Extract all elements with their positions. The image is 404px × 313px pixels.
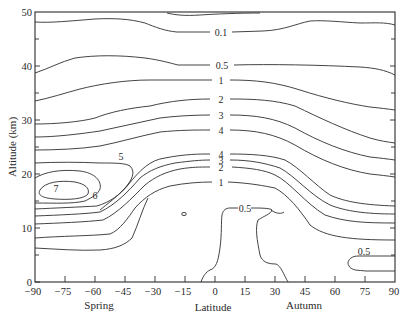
season-autumn-label: Autumn [286, 299, 323, 311]
label-4-upper: 4 [219, 125, 224, 136]
y-tick-50: 50 [22, 7, 33, 18]
y-tick-labels: 0 10 20 30 40 50 [22, 7, 33, 288]
x-tick-labels: −90 −75 −60 −45 −30 −15 0 15 30 45 60 75… [25, 286, 399, 297]
season-spring-label: Spring [84, 299, 114, 311]
contour-chart: 0 10 20 30 40 50 −90 −75 −60 −45 −30 −15… [0, 0, 404, 313]
contour-0.5-equator [201, 208, 288, 282]
label-1-upper: 1 [219, 75, 224, 86]
label-6: 6 [93, 190, 98, 201]
label-0.1: 0.1 [215, 27, 228, 38]
contour-0.5-right [348, 256, 395, 271]
y-tick-20: 20 [22, 169, 33, 180]
y-axis-title: Altitude (km) [6, 117, 19, 178]
x-tick-45: 45 [300, 286, 311, 297]
y-ticks [35, 39, 395, 282]
label-3-upper: 3 [219, 110, 224, 121]
x-tick-m15: −15 [175, 286, 191, 297]
label-2-lower: 2 [219, 162, 224, 173]
label-5: 5 [119, 151, 124, 162]
x-tick-15: 15 [240, 286, 251, 297]
x-tick-90: 90 [389, 286, 400, 297]
contour-lines [35, 13, 395, 282]
y-tick-40: 40 [22, 61, 33, 72]
x-tick-m75: −75 [55, 286, 71, 297]
label-1-lower: 1 [219, 177, 224, 188]
y-tick-30: 30 [22, 115, 33, 126]
contour-7 [39, 181, 88, 199]
x-axis-title: Latitude [195, 301, 232, 313]
contour-6 [35, 170, 100, 203]
y-tick-10: 10 [22, 223, 33, 234]
x-tick-60: 60 [330, 286, 341, 297]
x-tick-m30: −30 [145, 286, 161, 297]
x-tick-75: 75 [360, 286, 371, 297]
label-0.5-upper: 0.5 [216, 60, 229, 71]
x-ticks [65, 276, 365, 282]
label-2-upper: 2 [219, 94, 224, 105]
x-tick-m60: −60 [85, 286, 101, 297]
x-tick-m45: −45 [115, 286, 131, 297]
label-0.5-equator: 0.5 [239, 203, 252, 214]
label-7: 7 [54, 183, 59, 194]
x-tick-m90: −90 [25, 286, 41, 297]
label-0.5-right: 0.5 [358, 246, 371, 257]
x-tick-0: 0 [212, 286, 217, 297]
x-tick-30: 30 [270, 286, 281, 297]
